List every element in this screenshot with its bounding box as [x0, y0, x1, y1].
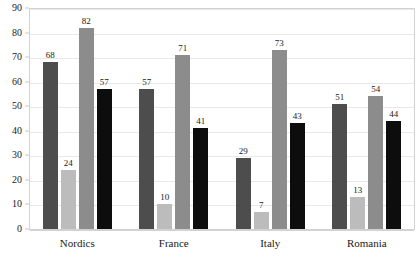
bar-group-nordics: 68248257	[43, 8, 112, 229]
bar-value-label: 10	[160, 193, 169, 202]
bar-value-label: 73	[275, 39, 284, 48]
y-tick-label-20: 20	[12, 175, 22, 185]
bar-france-series-2[interactable]: 10	[157, 204, 172, 229]
bar-romania-series-4[interactable]: 44	[386, 121, 401, 229]
bar-value-label: 57	[142, 78, 151, 87]
bar-group-romania: 51135444	[332, 8, 401, 229]
gridline-0	[30, 230, 414, 231]
y-tick-label-90: 90	[12, 3, 22, 13]
bar-nordics-series-2[interactable]: 24	[61, 170, 76, 229]
bar-value-label: 44	[389, 110, 398, 119]
bar-nordics-series-1[interactable]: 68	[43, 62, 58, 229]
bar-romania-series-2[interactable]: 13	[350, 197, 365, 229]
bar-france-series-4[interactable]: 41	[193, 128, 208, 229]
y-tick-label-50: 50	[12, 101, 22, 111]
x-category-label-romania: Romania	[347, 238, 387, 249]
bar-group-italy: 2977343	[236, 8, 305, 229]
bar-romania-series-3[interactable]: 54	[368, 96, 383, 229]
bar-value-label: 29	[239, 147, 248, 156]
bars-layer: 6824825757107141297734351135444	[29, 8, 415, 230]
bar-value-label: 7	[259, 201, 264, 210]
x-category-label-italy: Italy	[260, 238, 280, 249]
y-axis: 0102030405060708090	[0, 8, 29, 230]
bar-france-series-3[interactable]: 71	[175, 55, 190, 229]
bar-italy-series-1[interactable]: 29	[236, 158, 251, 229]
bar-nordics-series-3[interactable]: 82	[79, 28, 94, 229]
x-category-label-nordics: Nordics	[60, 238, 95, 249]
bar-romania-series-1[interactable]: 51	[332, 104, 347, 229]
bar-value-label: 41	[196, 117, 205, 126]
x-category-label-france: France	[159, 238, 189, 249]
y-tick-label-80: 80	[12, 28, 22, 38]
x-axis: NordicsFranceItalyRomania	[29, 232, 415, 262]
bar-group-france: 57107141	[139, 8, 208, 229]
bar-italy-series-4[interactable]: 43	[290, 123, 305, 229]
bar-value-label: 68	[46, 51, 55, 60]
y-tick-label-60: 60	[12, 77, 22, 87]
bar-value-label: 13	[353, 186, 362, 195]
bar-value-label: 54	[371, 85, 380, 94]
y-tick-label-40: 40	[12, 126, 22, 136]
bar-france-series-1[interactable]: 57	[139, 89, 154, 229]
bar-value-label: 57	[100, 78, 109, 87]
bar-value-label: 24	[64, 159, 73, 168]
y-tick-label-30: 30	[12, 150, 22, 160]
bar-nordics-series-4[interactable]: 57	[97, 89, 112, 229]
bar-chart: 0102030405060708090 68248257571071412977…	[0, 0, 418, 266]
bar-value-label: 51	[335, 93, 344, 102]
bar-value-label: 82	[82, 17, 91, 26]
bar-italy-series-3[interactable]: 73	[272, 50, 287, 229]
y-tick-label-10: 10	[12, 199, 22, 209]
y-tick-label-70: 70	[12, 52, 22, 62]
y-tick-label-0: 0	[17, 224, 22, 234]
bar-italy-series-2[interactable]: 7	[254, 212, 269, 229]
bar-value-label: 71	[178, 44, 187, 53]
bar-value-label: 43	[293, 112, 302, 121]
